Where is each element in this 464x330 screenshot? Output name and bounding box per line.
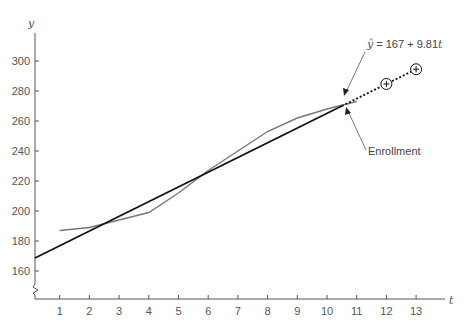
y-tick-label: 180: [12, 235, 30, 247]
y-tick-label: 300: [12, 55, 30, 67]
axis-ticks: 1601802002202402602803001234567891011121…: [12, 55, 423, 317]
y-tick-label: 220: [12, 175, 30, 187]
y-axis-break-icon: [33, 284, 38, 299]
x-tick-label: 9: [294, 305, 300, 317]
x-tick-label: 5: [175, 305, 181, 317]
equation-arrowhead-icon: [343, 88, 349, 96]
y-tick-label: 280: [12, 85, 30, 97]
enrollment-leader-line: [348, 111, 366, 150]
x-tick-label: 13: [410, 305, 422, 317]
enrollment-arrowhead-icon: [345, 107, 351, 115]
y-axis-title: y: [27, 17, 35, 30]
equation-body: = 167 + 9.81: [373, 38, 438, 50]
x-tick-label: 8: [265, 305, 271, 317]
x-tick-label: 6: [205, 305, 211, 317]
equation-leader-line: [346, 52, 365, 92]
equation-variable: t: [438, 38, 443, 51]
enrollment-trend-chart: 1601802002202402602803001234567891011121…: [0, 0, 464, 330]
y-tick-label: 160: [12, 265, 30, 277]
trend-line-solid: [35, 106, 342, 258]
x-axis-title: t: [449, 294, 454, 307]
x-tick-label: 4: [146, 305, 152, 317]
y-tick-label: 260: [12, 115, 30, 127]
enrollment-label: Enrollment: [368, 145, 421, 157]
x-tick-label: 12: [380, 305, 392, 317]
trend-line-dotted-extension: [342, 69, 416, 106]
x-tick-label: 11: [351, 305, 362, 317]
x-tick-label: 2: [86, 305, 92, 317]
annotations: y t ŷ = 167 + 9.81t Enrollment: [27, 17, 454, 307]
x-tick-label: 1: [57, 305, 63, 317]
series-layer: [35, 64, 422, 258]
x-tick-label: 3: [116, 305, 122, 317]
y-tick-label: 240: [12, 145, 30, 157]
y-tick-label: 200: [12, 205, 30, 217]
x-tick-label: 10: [321, 305, 333, 317]
axes: [33, 33, 445, 299]
x-tick-label: 7: [235, 305, 241, 317]
regression-equation-label: ŷ = 167 + 9.81t: [366, 38, 443, 51]
